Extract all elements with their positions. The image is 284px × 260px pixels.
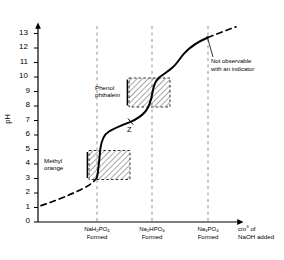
curve-segment-dashed-start: [41, 178, 97, 206]
y-tick-label-1: 1: [16, 203, 30, 211]
x-label-na2hpo4-formed: Formed: [142, 234, 163, 240]
methyl-orange-label-line1: Methyl: [44, 157, 62, 164]
curve-segment-dashed-end: [208, 27, 236, 38]
x-axis-title-line1: cm3 of: [238, 225, 256, 232]
x-label-nah2po4-formed: Formed: [87, 234, 108, 240]
not-observable-line2: with an indicator: [211, 66, 254, 72]
indicator-band-methyl-orange: [87, 151, 130, 180]
not-observable-annotation: Not observable with an indicator: [211, 58, 254, 73]
methyl-orange-label-line2: orange: [44, 164, 63, 171]
indicator-band-phenolphthalein: [127, 78, 170, 107]
y-tick-label-6: 6: [16, 130, 30, 138]
plot-canvas: [0, 0, 284, 260]
y-tick-label-12: 12: [14, 43, 28, 51]
y-tick-label-8: 8: [16, 101, 30, 109]
phenolphthalein-label-line2: phthalein: [95, 91, 120, 98]
x-label-nah2po4: NaH2PO4 Formed: [70, 226, 124, 241]
f1-mid: HPO: [149, 226, 162, 232]
y-tick-label-9: 9: [16, 87, 30, 95]
f2-mid: PO: [208, 226, 217, 232]
x-axis-title-line2: NaOH added: [238, 233, 274, 240]
y-tick-label-11: 11: [14, 58, 28, 66]
f1-pre: Na: [139, 226, 147, 232]
not-observable-line1: Not observable: [211, 58, 251, 64]
x-title-cubed: 3: [246, 224, 248, 229]
y-tick-label-13: 13: [14, 29, 28, 37]
x-label-na2hpo4-formula: Na2HPO4: [139, 226, 165, 232]
y-tick-label-2: 2: [16, 188, 30, 196]
f2-pre: Na: [197, 226, 205, 232]
x-title-cm: cm: [238, 225, 246, 232]
x-label-na3po4-formula: Na3PO4: [197, 226, 218, 232]
methyl-orange-band-rect: [89, 151, 130, 180]
f2-sub1: 3: [205, 228, 207, 233]
f0-sub2: 4: [107, 228, 109, 233]
y-tick-label-10: 10: [14, 72, 28, 80]
x-label-nah2po4-formula: NaH2PO4: [84, 226, 110, 232]
f0-sub1: 2: [96, 228, 98, 233]
methyl-orange-label: Methyl orange: [44, 157, 63, 171]
x-label-na3po4-formed: Formed: [198, 234, 219, 240]
y-tick-label-0: 0: [16, 217, 30, 225]
y-tick-label-5: 5: [16, 145, 30, 153]
f1-sub2: 4: [162, 228, 164, 233]
z-point-label: Z: [127, 126, 132, 134]
x-title-of: of: [249, 225, 256, 232]
f2-sub2: 4: [216, 228, 218, 233]
f0-pre: NaH: [84, 226, 96, 232]
phenolphthalein-label: Phenol phthalein: [95, 84, 120, 98]
x-axis-title: cm3 of NaOH added: [238, 225, 274, 241]
y-tick-label-7: 7: [16, 116, 30, 124]
y-tick-label-3: 3: [16, 174, 30, 182]
phenolphthalein-label-line1: Phenol: [95, 84, 114, 91]
x-label-na2hpo4: Na2HPO4 Formed: [125, 226, 179, 241]
f1-sub1: 2: [147, 228, 149, 233]
titration-curve-figure: 0 1 2 3 4 5 6 7 8 9 10 11 12 13 pH Methy…: [0, 0, 284, 260]
x-label-na3po4: Na3PO4 Formed: [181, 226, 235, 241]
equivalence-guide-lines: [97, 26, 208, 222]
y-tick-label-4: 4: [16, 159, 30, 167]
y-axis-title: pH: [4, 112, 12, 126]
